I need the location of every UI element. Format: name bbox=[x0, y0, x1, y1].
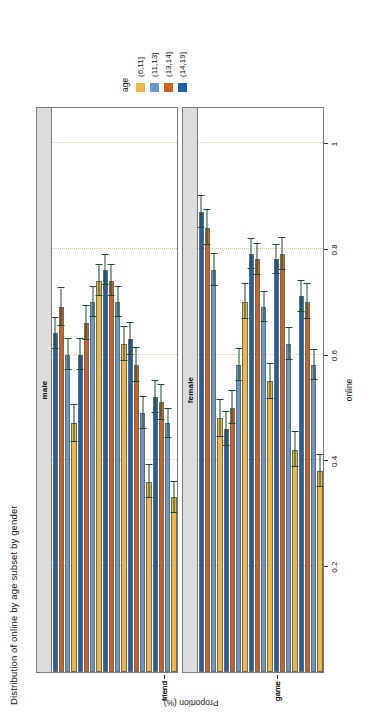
bar-group-music bbox=[273, 108, 298, 672]
error-bar-cap bbox=[254, 243, 261, 244]
bar-friend-(6,11] bbox=[71, 423, 76, 672]
bar-row bbox=[230, 108, 235, 672]
error-bar-cap bbox=[164, 408, 171, 409]
bar-video-(6,11] bbox=[121, 344, 126, 672]
bar-friend-(13,14] bbox=[59, 307, 64, 672]
error-bar-cap bbox=[89, 286, 96, 287]
bar-group-friend bbox=[52, 108, 77, 672]
error-bar-cap bbox=[127, 354, 134, 355]
error-bar-cap bbox=[229, 390, 236, 391]
error-bar-cap bbox=[254, 274, 261, 275]
error-bar-cap bbox=[170, 481, 177, 482]
legend-item: (14,19] bbox=[178, 6, 187, 92]
chart-figure: Distribution of online by age subset by … bbox=[0, 0, 369, 719]
bar-row bbox=[217, 108, 222, 672]
error-bar-cap bbox=[164, 437, 171, 438]
panel-body bbox=[52, 108, 177, 672]
value-axis-title: Proportion (%) bbox=[101, 698, 281, 708]
error-bar bbox=[269, 364, 270, 399]
error-bar-cap bbox=[64, 370, 71, 371]
error-bar-cap bbox=[108, 264, 115, 265]
error-bar-cap bbox=[52, 317, 59, 318]
error-bar bbox=[161, 385, 162, 420]
error-bar-cap bbox=[152, 412, 159, 413]
error-bar-cap bbox=[298, 311, 305, 312]
bar-video-(14,19] bbox=[103, 270, 108, 672]
error-bar-cap bbox=[279, 237, 286, 238]
bar-music-(13,14] bbox=[280, 254, 285, 672]
error-bar bbox=[80, 339, 81, 371]
bar-row bbox=[146, 108, 151, 672]
bar-row bbox=[128, 108, 133, 672]
error-bar-cap bbox=[198, 195, 205, 196]
bar-music-(6,11] bbox=[146, 482, 151, 672]
bar-row bbox=[65, 108, 70, 672]
bar-school-(14,19] bbox=[299, 296, 304, 672]
error-bar-cap bbox=[316, 454, 323, 455]
error-bar-cap bbox=[89, 316, 96, 317]
chart-title: Distribution of online by age subset by … bbox=[8, 505, 19, 705]
error-bar bbox=[123, 327, 124, 362]
bar-row bbox=[199, 108, 204, 672]
bar-row bbox=[261, 108, 266, 672]
bar-row bbox=[236, 108, 241, 672]
bar-row bbox=[165, 108, 170, 672]
bar-video-(11,13] bbox=[115, 302, 120, 672]
panel-strip-label: male bbox=[40, 380, 49, 399]
error-bar-cap bbox=[77, 370, 84, 371]
bar-friend-(14,19] bbox=[199, 212, 204, 672]
legend-swatch-icon bbox=[164, 83, 173, 92]
value-axis-tick-label: 0.8 bbox=[330, 244, 339, 255]
error-bar bbox=[130, 323, 131, 355]
panel-strip-label: female bbox=[186, 377, 195, 404]
figure-rotator: Distribution of online by age subset by … bbox=[0, 0, 369, 719]
error-bar bbox=[244, 284, 245, 319]
error-bar-cap bbox=[133, 347, 140, 348]
error-bar bbox=[251, 239, 252, 269]
error-bar-cap bbox=[210, 253, 217, 254]
bar-group-school bbox=[298, 108, 323, 672]
bar-game-(14,19] bbox=[224, 429, 229, 672]
error-bar bbox=[155, 381, 156, 413]
bar-school-(13,14] bbox=[159, 402, 164, 672]
bar-school-(11,13] bbox=[311, 365, 316, 672]
error-bar-cap bbox=[64, 338, 71, 339]
error-bar bbox=[86, 306, 87, 340]
bar-friend-(13,14] bbox=[205, 228, 210, 672]
error-bar bbox=[257, 244, 258, 276]
bar-row bbox=[317, 108, 322, 672]
error-bar-cap bbox=[83, 305, 90, 306]
error-bar-cap bbox=[260, 291, 267, 292]
legend-item: (13,14] bbox=[164, 6, 173, 92]
error-bar-cap bbox=[310, 349, 317, 350]
legend-item-label: (6,11] bbox=[136, 57, 145, 77]
panel-male: male bbox=[36, 107, 178, 673]
bar-school-(13,14] bbox=[305, 302, 310, 672]
legend-item-label: (14,19] bbox=[178, 52, 187, 77]
bar-game-(13,14] bbox=[84, 323, 89, 672]
error-bar-cap bbox=[133, 381, 140, 382]
bar-row bbox=[59, 108, 64, 672]
bar-row bbox=[242, 108, 247, 672]
error-bar bbox=[105, 255, 106, 285]
bar-row bbox=[255, 108, 260, 672]
bar-row bbox=[305, 108, 310, 672]
value-axis-tick bbox=[324, 566, 328, 567]
error-bar bbox=[167, 409, 168, 439]
bar-group-video bbox=[102, 108, 127, 672]
error-bar bbox=[148, 465, 149, 499]
bar-row bbox=[171, 108, 176, 672]
error-bar-cap bbox=[198, 227, 205, 228]
bar-group-music bbox=[127, 108, 152, 672]
category-tick-label: game bbox=[273, 681, 282, 701]
error-bar bbox=[61, 289, 62, 326]
error-bar bbox=[142, 397, 143, 429]
error-bar-cap bbox=[310, 379, 317, 380]
value-axis-tick bbox=[324, 249, 328, 250]
error-bar-cap bbox=[304, 283, 311, 284]
value-axis-tick-label: 1 bbox=[330, 142, 339, 146]
error-bar bbox=[117, 287, 118, 317]
bar-music-(6,11] bbox=[292, 450, 297, 672]
bar-group-game bbox=[223, 108, 248, 672]
category-axis-title: online bbox=[344, 107, 354, 673]
